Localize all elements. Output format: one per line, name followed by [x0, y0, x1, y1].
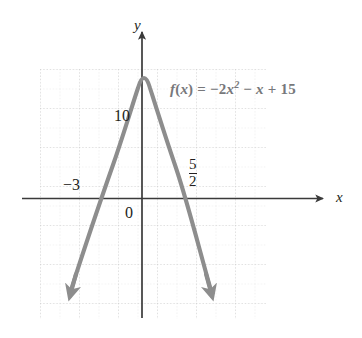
parabola-figure: y x 10 −3 0 5 2 f(x) = −2x2 − x + 15 — [0, 0, 362, 338]
function-equals-sign: = — [193, 81, 210, 97]
function-x-squared-base: x — [226, 81, 234, 97]
function-equation-label: f(x) = −2x2 − x + 15 — [170, 80, 296, 97]
y-tick-label-10: 10 — [114, 108, 130, 124]
graph-canvas — [0, 0, 362, 338]
x-root-label-negative-three: −3 — [63, 177, 80, 193]
x-root-label-five-halves: 5 2 — [189, 157, 197, 190]
function-constant-term: + 15 — [264, 81, 296, 97]
fraction-five-halves: 5 2 — [189, 157, 197, 190]
origin-label: 0 — [125, 205, 133, 221]
fraction-numerator: 5 — [189, 157, 197, 172]
x-axis-label: x — [336, 190, 343, 205]
function-variable: x — [180, 81, 188, 97]
function-minus-sign: − — [239, 81, 256, 97]
y-axis-label: y — [134, 18, 141, 33]
function-linear-term: x — [256, 81, 264, 97]
function-leading-coefficient: −2 — [210, 81, 226, 97]
fraction-denominator: 2 — [189, 174, 197, 189]
